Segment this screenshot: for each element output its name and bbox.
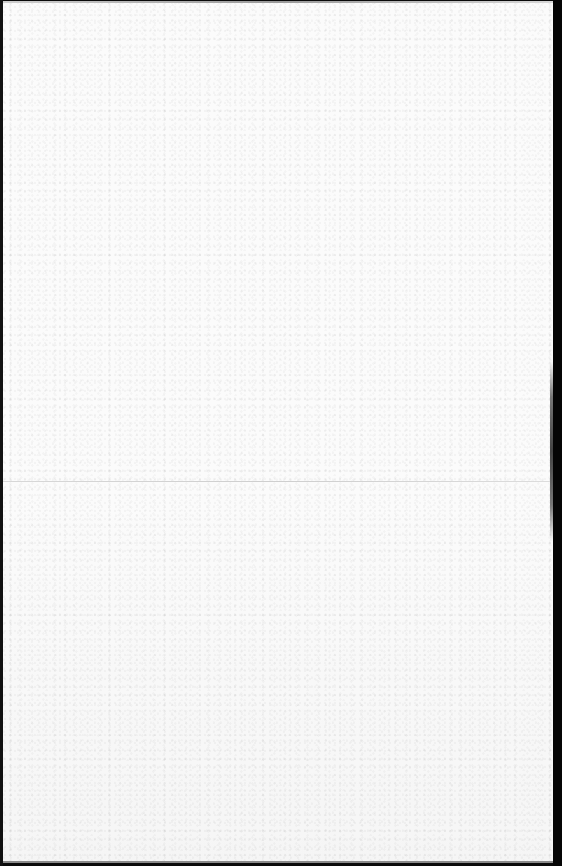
fold-crease-line — [3, 481, 553, 482]
blank-paper-sheet — [3, 1, 553, 863]
paper-shading — [3, 483, 553, 863]
scanned-document — [0, 0, 562, 866]
sheet-top-edge — [3, 1, 553, 3]
sheet-bottom-edge — [3, 861, 553, 863]
scanner-right-border — [553, 0, 562, 866]
